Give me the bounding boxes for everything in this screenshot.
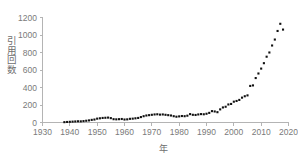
plot-area: 020040060080010001200 193019401950196019…	[0, 0, 298, 159]
data-point	[282, 29, 284, 31]
y-tick-label-400: 400	[23, 83, 37, 93]
data-point	[200, 113, 202, 115]
data-point	[134, 117, 136, 119]
data-point	[225, 106, 227, 108]
data-point	[257, 72, 259, 74]
y-tick-label-200: 200	[23, 100, 37, 110]
data-point	[263, 62, 265, 64]
data-point	[102, 117, 104, 119]
data-point	[189, 113, 191, 115]
data-point	[211, 110, 213, 112]
x-tick-label-1930: 1930	[33, 127, 52, 137]
y-tick-label-1200: 1200	[18, 13, 37, 23]
data-point	[77, 120, 79, 122]
y-tick-label-600: 600	[23, 65, 37, 75]
data-point	[115, 118, 117, 120]
data-point	[279, 23, 281, 25]
data-point	[96, 118, 98, 120]
x-tick-label-2020: 2020	[279, 127, 298, 137]
data-point	[143, 115, 145, 117]
data-point	[129, 118, 131, 120]
data-point	[205, 113, 207, 115]
data-points	[63, 23, 284, 123]
data-point	[192, 114, 194, 116]
data-point	[104, 117, 106, 119]
data-point	[208, 112, 210, 114]
data-point	[241, 97, 243, 99]
data-point	[195, 114, 197, 116]
data-point	[173, 115, 175, 117]
data-point	[140, 116, 142, 118]
data-point	[132, 118, 134, 120]
x-axis: 1930194019501960197019801990200020102020	[33, 123, 298, 138]
data-point	[82, 120, 84, 122]
x-axis-title: 年	[159, 143, 168, 154]
data-point	[178, 115, 180, 117]
data-point	[148, 114, 150, 116]
data-point	[268, 51, 270, 53]
x-tick-label-2000: 2000	[224, 127, 243, 137]
data-point	[118, 118, 120, 120]
data-point	[181, 115, 183, 117]
x-tick-label-1940: 1940	[60, 127, 79, 137]
x-tick-labels: 1930194019501960197019801990200020102020	[33, 127, 298, 137]
x-tick-label-2010: 2010	[252, 127, 271, 137]
data-point	[151, 114, 153, 116]
data-point	[252, 84, 254, 86]
data-point	[184, 115, 186, 117]
x-tick-label-1950: 1950	[88, 127, 107, 137]
data-point	[72, 121, 74, 123]
data-point	[271, 44, 273, 46]
data-point	[216, 111, 218, 113]
data-point	[246, 94, 248, 96]
data-point	[113, 118, 115, 120]
data-point	[175, 116, 177, 118]
data-point	[99, 117, 101, 119]
data-point	[121, 118, 123, 120]
data-point	[162, 113, 164, 115]
citation-chart: 引 用 回 数 020040060080010001200 1930194019…	[0, 0, 298, 159]
data-point	[222, 106, 224, 108]
data-point	[80, 120, 82, 122]
data-point	[88, 119, 90, 121]
y-tick-label-800: 800	[23, 48, 37, 58]
data-point	[164, 114, 166, 116]
data-point	[236, 100, 238, 102]
data-point	[156, 113, 158, 115]
data-point	[107, 117, 109, 119]
data-point	[154, 113, 156, 115]
data-point	[126, 118, 128, 120]
y-tick-label-1000: 1000	[18, 30, 37, 40]
y-tick-labels: 020040060080010001200	[18, 13, 37, 128]
data-point	[123, 118, 125, 120]
data-point	[110, 117, 112, 119]
data-point	[63, 121, 65, 123]
data-point	[170, 114, 172, 116]
data-point	[186, 115, 188, 117]
data-point	[197, 113, 199, 115]
data-point	[233, 101, 235, 103]
data-point	[167, 114, 169, 116]
data-point	[159, 114, 161, 116]
data-point	[137, 117, 139, 119]
x-tick-label-1960: 1960	[115, 127, 134, 137]
data-point	[74, 120, 76, 122]
data-point	[244, 95, 246, 97]
data-point	[219, 108, 221, 110]
x-tick-label-1980: 1980	[170, 127, 189, 137]
data-point	[145, 114, 147, 116]
y-axis: 020040060080010001200	[18, 13, 42, 128]
data-point	[255, 77, 257, 79]
y-tick-label-0: 0	[32, 118, 37, 128]
data-point	[227, 103, 229, 105]
x-tick-label-1970: 1970	[142, 127, 161, 137]
data-point	[260, 68, 262, 70]
data-point	[203, 113, 205, 115]
data-point	[249, 85, 251, 87]
data-point	[277, 30, 279, 32]
x-tick-label-1990: 1990	[197, 127, 216, 137]
data-point	[238, 99, 240, 101]
data-point	[214, 110, 216, 112]
data-point	[66, 121, 68, 123]
data-point	[274, 39, 276, 41]
